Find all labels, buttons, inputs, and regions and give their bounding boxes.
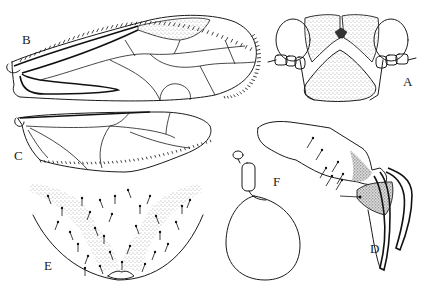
seta (307, 138, 313, 148)
marginal-seta (91, 162, 92, 165)
label-a: A (403, 74, 413, 89)
marginal-seta (101, 27, 103, 31)
marginal-seta (236, 41, 238, 45)
seta (128, 190, 131, 198)
seta-socket (312, 137, 314, 139)
spermatheca-pump-cap (233, 151, 243, 159)
seta-socket (109, 251, 111, 253)
marginal-seta (242, 90, 245, 92)
marginal-seta (53, 161, 54, 164)
marginal-seta (168, 152, 169, 155)
hindwing-vein-cross (166, 113, 170, 134)
marginal-seta (249, 82, 252, 83)
marginal-seta (163, 153, 164, 156)
spermatheca-duct-top (238, 159, 240, 163)
anatomical-plate: B A (0, 0, 424, 287)
seta-socket (359, 196, 362, 199)
panel-a-head: A (268, 15, 416, 102)
marginal-seta (251, 79, 254, 80)
marginal-seta (95, 162, 96, 165)
seta-socket (149, 195, 151, 197)
seta-socket (81, 197, 83, 199)
marginal-seta (63, 40, 65, 44)
marginal-seta (138, 158, 139, 161)
genitalia-stippled-shading (350, 150, 372, 182)
forewing-areola (160, 84, 191, 100)
seta-socket (87, 255, 89, 257)
genitalia-setae (307, 137, 344, 190)
marginal-seta (121, 23, 123, 27)
stippled-band-left (30, 184, 115, 272)
marginal-seta (142, 158, 143, 161)
seta (336, 180, 342, 190)
marginal-seta (254, 73, 258, 74)
seta (147, 196, 150, 204)
marginal-seta (207, 30, 209, 34)
seta (100, 200, 103, 208)
label-f: F (273, 174, 280, 189)
seta-socket (135, 225, 137, 227)
marginal-seta (224, 96, 225, 98)
forewing-vein-cross4 (174, 40, 180, 54)
panel-d-genitalia: D (257, 121, 412, 270)
label-e: E (44, 258, 52, 273)
marginal-seta (226, 37, 228, 41)
marginal-seta (87, 162, 88, 165)
marginal-seta (176, 150, 177, 153)
seta-socket (321, 149, 323, 151)
seta (152, 252, 155, 260)
marginal-seta (121, 160, 122, 163)
marginal-seta (212, 32, 214, 35)
forewing-vein-cross2 (200, 66, 215, 95)
forewing-vein-m (150, 54, 255, 67)
seta-socket (337, 161, 339, 163)
marginal-seta (155, 155, 156, 158)
marginal-seta (257, 58, 261, 59)
marginal-seta (58, 42, 60, 46)
seta-socket (155, 215, 157, 217)
marginal-seta (116, 24, 118, 28)
forewing-vein-cross3 (225, 40, 235, 64)
marginal-seta (250, 47, 252, 51)
marginal-seta (247, 85, 250, 87)
spermatheca-pump (242, 163, 255, 191)
seta-socket (325, 167, 327, 169)
marginal-seta (221, 35, 223, 39)
marginal-seta (125, 160, 126, 163)
seta-socket (167, 243, 169, 245)
seta-socket (144, 263, 146, 265)
seta-socket (77, 243, 79, 245)
seta-socket (159, 231, 161, 233)
marginal-seta (193, 145, 194, 148)
marginal-seta (216, 33, 218, 37)
seta (176, 222, 179, 230)
label-c: C (14, 148, 23, 163)
marginal-seta (227, 96, 228, 98)
marginal-seta (180, 149, 181, 152)
seta (187, 200, 190, 208)
forewing-vein-cross1 (125, 40, 135, 56)
marginal-seta (108, 161, 109, 164)
seta (85, 256, 88, 264)
marginal-seta (106, 26, 108, 30)
seta-socket (84, 267, 86, 269)
panel-e-subgenital-plate: E (30, 184, 203, 280)
marginal-seta (57, 161, 58, 164)
marginal-seta (74, 162, 75, 165)
marginal-seta (185, 148, 186, 151)
seta-socket (181, 205, 183, 207)
marginal-seta (117, 161, 118, 164)
marginal-seta (73, 36, 75, 40)
forewing-vein-cu (110, 60, 160, 100)
marginal-seta (70, 161, 71, 164)
marginal-seta (78, 162, 79, 165)
marginal-seta (68, 38, 70, 42)
seta-socket (129, 245, 131, 247)
marginal-seta (206, 141, 207, 144)
hindwing-marginal-setae (40, 140, 211, 165)
marginal-seta (112, 161, 113, 164)
seta-socket (121, 261, 123, 263)
hindwing-vein-m2 (130, 132, 190, 148)
marginal-seta (82, 33, 84, 37)
marginal-seta (104, 161, 105, 164)
